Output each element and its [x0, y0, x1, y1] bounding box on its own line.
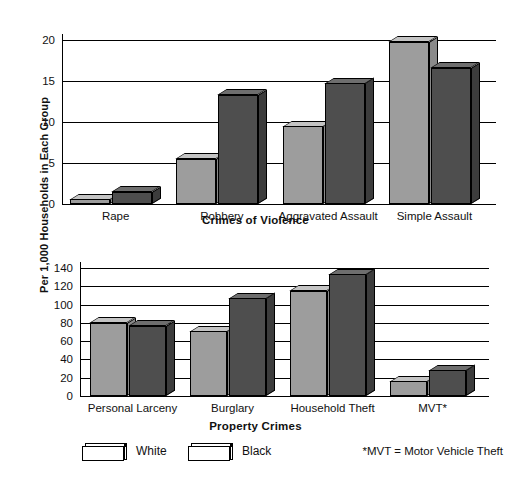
bar-white-burglary — [190, 331, 227, 396]
y-axis-tick-label: 40 — [60, 353, 80, 365]
bar-front-face — [70, 199, 110, 204]
bar-front-face — [129, 326, 166, 396]
bar-black-mvt — [429, 370, 466, 396]
y-axis-tick-label: 15 — [42, 75, 62, 87]
swatch-front-face — [82, 446, 124, 461]
bar-black-robbery — [218, 95, 258, 204]
y-axis-tick-label: 140 — [54, 262, 80, 274]
x-axis-category-label: Burglary — [211, 402, 254, 414]
bar-front-face — [218, 95, 258, 204]
bar-front-face — [283, 126, 323, 204]
y-axis-tick-label: 120 — [54, 280, 80, 292]
gridline — [80, 305, 489, 306]
bar-front-face — [325, 83, 365, 204]
plot-area-bottom: 020406080100120140Personal LarcenyBurgla… — [80, 268, 480, 396]
gridline — [80, 268, 489, 269]
swatch-side-face — [124, 443, 127, 460]
legend-swatch-white — [82, 443, 126, 462]
legend-label-white: White — [136, 444, 167, 458]
chart-property-crimes: 020406080100120140Personal LarcenyBurgla… — [0, 252, 511, 437]
chart-page: { "figure": { "shared_ylabel": "Per 1,00… — [0, 0, 511, 486]
y-axis-tick-label: 5 — [49, 157, 62, 169]
x-axis-title-top: Crimes of Violence — [0, 214, 511, 226]
y-axis-line — [62, 34, 63, 204]
bar-front-face — [176, 159, 216, 204]
bar-black-simple-assault — [431, 68, 471, 204]
bar-front-face — [431, 68, 471, 204]
bar-white-mvt — [390, 381, 427, 396]
legend: White Black *MVT = Motor Vehicle Theft — [0, 443, 511, 473]
bar-front-face — [429, 370, 466, 396]
bar-black-burglary — [229, 298, 266, 396]
bar-front-face — [190, 331, 227, 396]
bar-front-face — [90, 323, 127, 396]
y-axis-line — [80, 262, 81, 396]
bar-front-face — [290, 291, 327, 396]
y-axis-tick-label: 0 — [67, 390, 80, 402]
bar-side-face — [258, 89, 267, 204]
bar-side-face — [471, 62, 480, 204]
x-axis-title-bottom: Property Crimes — [0, 420, 511, 432]
legend-label-black: Black — [242, 444, 271, 458]
y-axis-tick-label: 60 — [60, 335, 80, 347]
x-axis-baseline — [62, 204, 496, 205]
bar-front-face — [229, 298, 266, 396]
legend-swatch-black — [188, 443, 232, 462]
bar-side-face — [366, 269, 375, 396]
bar-white-household-theft — [290, 291, 327, 396]
bar-white-aggravated-assault — [283, 126, 323, 204]
bar-front-face — [112, 192, 152, 204]
gridline — [80, 286, 489, 287]
footnote-mvt: *MVT = Motor Vehicle Theft — [362, 445, 503, 457]
bar-black-personal-larceny — [129, 326, 166, 396]
bar-white-robbery — [176, 159, 216, 204]
swatch-side-face — [230, 443, 233, 460]
x-axis-category-label: Personal Larceny — [88, 402, 178, 414]
bar-white-personal-larceny — [90, 323, 127, 396]
x-axis-category-label: MVT* — [418, 402, 447, 414]
y-axis-tick-label: 20 — [42, 34, 62, 46]
bar-side-face — [166, 320, 175, 396]
y-axis-tick-label: 20 — [60, 372, 80, 384]
bar-white-rape — [70, 199, 110, 204]
x-axis-category-label: Household Theft — [290, 402, 374, 414]
swatch-front-face — [188, 446, 230, 461]
y-axis-tick-label: 10 — [42, 116, 62, 128]
bar-black-rape — [112, 192, 152, 204]
y-axis-tick-label: 100 — [54, 299, 80, 311]
bar-side-face — [266, 293, 275, 396]
y-axis-tick-label: 0 — [49, 198, 62, 210]
chart-crimes-of-violence: 05101520RapeRobberyAggravated AssaultSim… — [0, 18, 511, 233]
bar-black-household-theft — [329, 274, 366, 396]
bar-black-aggravated-assault — [325, 83, 365, 204]
plot-area-top: 05101520RapeRobberyAggravated AssaultSim… — [62, 40, 487, 204]
bar-front-face — [329, 274, 366, 396]
y-axis-tick-label: 80 — [60, 317, 80, 329]
bar-side-face — [365, 78, 374, 204]
bar-front-face — [389, 42, 429, 204]
x-axis-baseline — [80, 396, 489, 397]
bar-white-simple-assault — [389, 42, 429, 204]
bar-front-face — [390, 381, 427, 396]
